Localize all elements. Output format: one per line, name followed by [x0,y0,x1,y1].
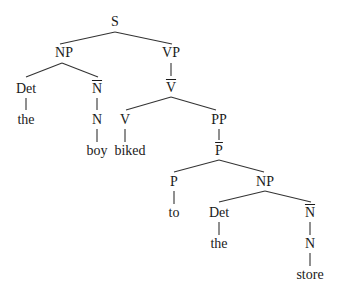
edge-np1-nbar1 [62,63,98,77]
node-vbar: V [166,81,176,95]
node-pp: PP [211,113,227,127]
node-p: P [170,175,178,189]
syntax-tree: SNPVPDetNVtheNVPPboybikedPPNPtoDetNtheNs… [0,0,337,296]
node-the1: the [17,113,34,127]
node-nbar1: N [92,82,102,96]
node-pbar: P [215,144,223,158]
node-n2: N [305,237,315,251]
edge-np2-det2 [219,191,265,202]
node-np2: NP [256,175,274,189]
node-det1: Det [16,82,36,96]
edge-pbar-p [174,160,219,172]
node-biked: biked [114,144,145,158]
node-nbar2: N [305,206,315,220]
node-the2: the [210,237,227,251]
edge-np1-det1 [26,63,62,77]
node-vp: VP [162,46,180,60]
node-store: store [296,268,323,282]
node-v: V [120,113,130,127]
node-to: to [169,206,180,220]
edge-vbar-v [126,97,171,110]
edge-s-np1 [60,32,115,44]
edge-s-vp [115,32,172,44]
node-s: S [111,15,119,29]
node-det2: Det [209,206,229,220]
edge-pbar-np2 [219,160,264,172]
edge-vbar-pp [171,97,216,110]
edge-np2-nbar2 [265,191,311,202]
node-boy: boy [87,144,108,158]
node-np1: NP [55,46,73,60]
node-n1: N [92,113,102,127]
